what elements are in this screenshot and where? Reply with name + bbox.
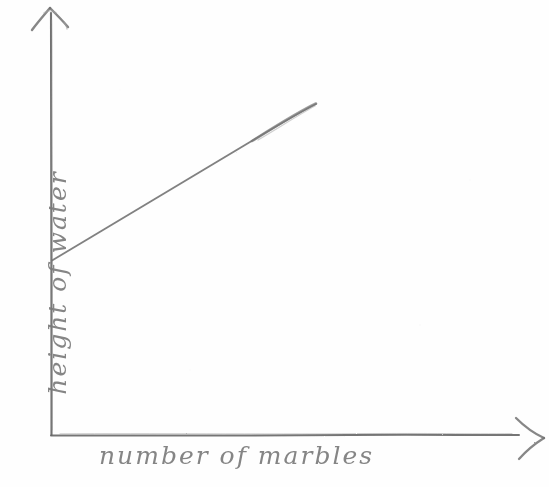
paper-texture — [0, 0, 549, 487]
y-axis-label: height of water — [43, 123, 72, 443]
handdrawn-graph-figure: number of marbles height of water — [0, 0, 549, 487]
x-axis-label: number of marbles — [99, 441, 374, 470]
sketch-drawing-surface — [0, 0, 549, 487]
